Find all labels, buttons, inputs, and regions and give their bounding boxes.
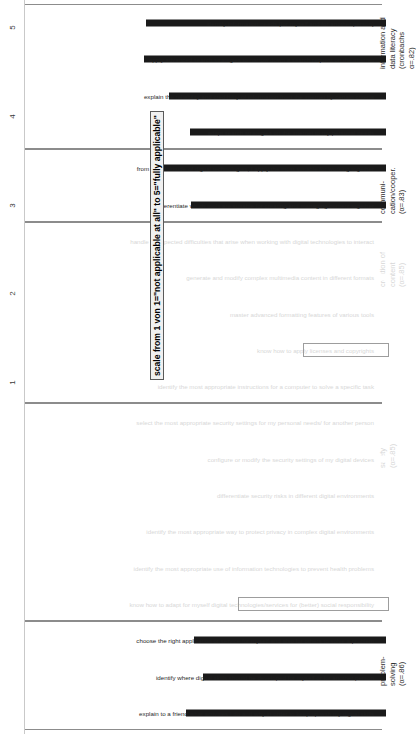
category-label: explain to a friend what activities I do… [25,709,378,716]
bar-group-information-and-data-literacy: information and data literacy (cronbachs… [25,4,382,149]
bar-item: identify the most appropriate instructio… [25,368,382,404]
bar-item: adapt search strategies on the internet … [25,114,382,150]
bar-item: identify information needs (for myself a… [25,5,382,41]
bar-item: know how to apply licenses and copyright… [25,332,382,368]
bar-group-problem-solving: problem- solving (α=.86)choose the right… [25,621,382,730]
bar-item: generate and modify complex multimedia c… [25,259,382,295]
bar-item: know how to adapt for myself digital tec… [25,586,382,622]
bar-item: differentiate security risks in differen… [25,477,382,513]
bar-group-creation-of-content: creation of content (α=.85)handle unexpe… [25,222,382,404]
scale-caption: scale from 1 von 1="not applicable at al… [150,111,164,380]
axis-tick-5: 5 [0,23,24,37]
axis-tick-2: 2 [0,289,24,303]
value-axis: 54321 [0,0,24,734]
category-label: know how to adapt for myself digital tec… [25,600,378,607]
bar-item: explain to a friend what activities I do… [25,695,382,731]
category-label: generate and modify complex multimedia c… [25,274,378,281]
category-label: identify the most appropriate instructio… [25,383,378,390]
category-label: identify where digital skills should be … [25,673,378,680]
bar-item: select the most appropriate security set… [25,404,382,440]
bar-item: configure or modify the security setting… [25,441,382,477]
bar-item: handle unexpected difficulties that aris… [25,223,382,259]
bar-item: differentiate which tools are suitable f… [25,186,382,222]
category-label: handle unexpected difficulties that aris… [25,237,378,244]
bar-group-safety: safety (α=.85)select the most appropriat… [25,403,382,621]
bar-item: identify where digital skills should be … [25,658,382,694]
bar-item: identify the most appropriate use of inf… [25,549,382,585]
bar-item: explain the reliability and credibility … [25,78,382,114]
bar-group-communication-cooperation: communi- cation/cooper. (α=.83)from the … [25,149,382,222]
bar-item: master advanced formatting features of v… [25,295,382,331]
category-label: from the multitude of digital technologi… [25,165,378,172]
plot-area: information and data literacy (cronbachs… [24,0,382,734]
axis-tick-1: 1 [0,378,24,392]
bar-item: identify the most appropriate way to pro… [25,513,382,549]
category-label: differentiate security risks in differen… [25,492,378,499]
axis-tick-4: 4 [0,112,24,126]
category-label: choose the right application or service … [25,637,378,644]
bar-item: choose the right application or service … [25,622,382,658]
category-label: master advanced formatting features of v… [25,310,378,317]
bar-item: from the multitude of digital technologi… [25,150,382,186]
category-label: adapt search strategies on the internet … [25,129,378,136]
bar-item: apply advanced search strategies to narr… [25,41,382,77]
category-label: select the most appropriate security set… [25,419,378,426]
category-label: configure or modify the security setting… [25,455,378,462]
category-label: explain the reliability and credibility … [25,92,378,99]
category-label: identify information needs (for myself a… [25,20,378,27]
category-label: identify the most appropriate way to pro… [25,528,378,535]
category-label: identify the most appropriate use of inf… [25,564,378,571]
category-label: know how to apply licenses and copyright… [25,346,378,353]
category-label: differentiate which tools are suitable f… [25,201,378,208]
axis-tick-3: 3 [0,201,24,215]
category-label: apply advanced search strategies to narr… [25,56,378,63]
